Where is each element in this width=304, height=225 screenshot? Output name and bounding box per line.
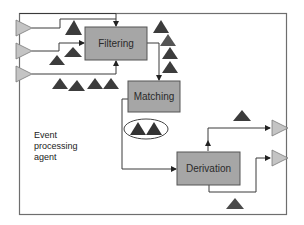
matching-box: Matching <box>128 81 180 112</box>
input-channel-icon <box>16 66 32 82</box>
agent-frame <box>20 14 287 215</box>
event-icon <box>65 20 82 35</box>
event-icon <box>49 55 65 65</box>
filtering-label: Filtering <box>98 38 134 49</box>
event-icon <box>226 198 244 209</box>
event-processing-agent-diagram: Filtering Matching Derivation <box>0 0 304 225</box>
event-icon <box>87 78 103 89</box>
derivation-box: Derivation <box>177 152 240 185</box>
event-icon <box>153 20 169 33</box>
output-channel-icon <box>272 120 288 136</box>
output-channel-icon <box>272 150 288 166</box>
derivation-return-arrowhead <box>205 140 211 146</box>
pattern-match-icon <box>124 119 168 139</box>
input-channel-icons <box>16 20 32 82</box>
input-channel-icon <box>16 43 32 59</box>
agent-label: Event processing agent <box>34 130 80 162</box>
event-icon <box>103 78 119 89</box>
filtering-box: Filtering <box>85 27 147 60</box>
event-icon <box>52 78 68 89</box>
event-icon <box>160 34 176 46</box>
event-icon <box>68 80 85 91</box>
event-icon <box>233 110 251 121</box>
event-icon <box>64 47 82 57</box>
output-channel-icons <box>272 120 288 166</box>
derivation-output-top-connector <box>208 128 270 151</box>
derivation-label: Derivation <box>186 163 231 174</box>
event-icon <box>162 61 178 73</box>
input-channel-icon <box>16 20 32 36</box>
filtering-to-matching-connector <box>147 43 159 80</box>
event-icon <box>162 47 178 59</box>
matching-label: Matching <box>134 91 175 102</box>
